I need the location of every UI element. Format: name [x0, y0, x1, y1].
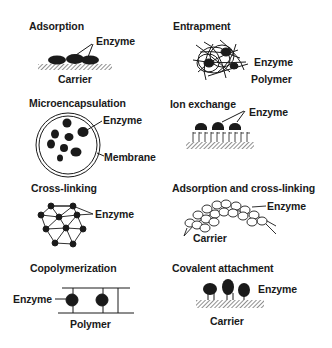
adsorption-cross-linking-illustration	[184, 200, 276, 236]
ion-exchange-illustration	[186, 111, 254, 149]
covalent-attachment-illustration	[196, 279, 264, 308]
diagram-artwork	[0, 0, 332, 348]
adsorption-illustration	[38, 44, 112, 70]
entrapment-illustration	[193, 40, 248, 80]
microencapsulation-illustration	[36, 113, 104, 177]
copolymerization-illustration	[55, 288, 134, 313]
cross-linking-illustration	[38, 203, 93, 247]
